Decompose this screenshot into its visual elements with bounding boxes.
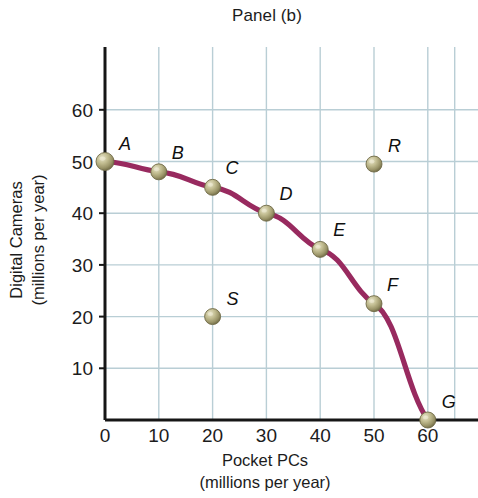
y-tick-label-20: 20 — [72, 307, 93, 328]
y-tick-label-60: 60 — [72, 100, 93, 121]
data-point-e — [312, 241, 328, 257]
y-axis-title: Digital Cameras — [7, 181, 25, 298]
point-label-c: C — [226, 158, 240, 178]
data-point-b — [151, 164, 167, 180]
point-label-b: B — [172, 143, 184, 163]
y-tick-label-50: 50 — [72, 152, 93, 173]
chart-figure: Panel (b) 0102030405060102030405060 ABCD… — [0, 0, 478, 498]
data-point-a — [96, 153, 114, 171]
x-tick-label-10: 10 — [148, 425, 169, 446]
x-tick-label-50: 50 — [363, 425, 384, 446]
point-label-s: S — [227, 289, 239, 309]
y-tick-label-30: 30 — [72, 255, 93, 276]
data-point-d — [258, 205, 274, 221]
point-label-a: A — [118, 134, 131, 154]
x-axis-units: (millions per year) — [199, 473, 330, 491]
point-label-g: G — [442, 392, 456, 412]
x-tick-label-0: 0 — [100, 425, 111, 446]
x-tick-label-30: 30 — [256, 425, 277, 446]
gridlines — [105, 47, 478, 420]
y-tick-label-40: 40 — [72, 203, 93, 224]
point-label-r: R — [388, 136, 401, 156]
y-tick-label-10: 10 — [72, 358, 93, 379]
data-point-r — [366, 156, 382, 172]
point-label-d: D — [279, 184, 292, 204]
y-axis-units: (millions per year) — [29, 174, 47, 305]
x-tick-label-40: 40 — [310, 425, 331, 446]
x-tick-label-20: 20 — [202, 425, 223, 446]
plot-area: 0102030405060102030405060 ABCDEFGRS Pock… — [0, 0, 478, 498]
data-point-s — [205, 309, 221, 325]
x-tick-label-60: 60 — [417, 425, 438, 446]
axis-lines — [99, 47, 478, 420]
point-label-e: E — [333, 220, 346, 240]
data-point-f — [366, 296, 382, 312]
point-label-f: F — [387, 275, 399, 295]
data-point-c — [205, 179, 221, 195]
x-axis-title: Pocket PCs — [222, 451, 308, 469]
